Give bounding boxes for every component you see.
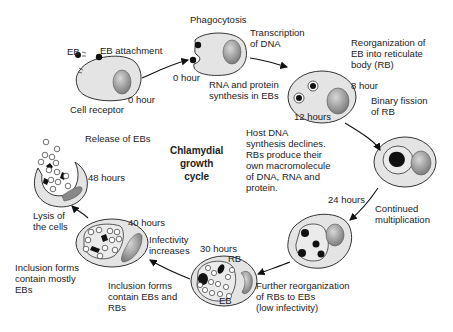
time-40-hours: 40 hours — [128, 217, 165, 228]
label-cell-receptor: Cell receptor — [70, 104, 124, 115]
label-continued-multiplication: Continued multiplication — [375, 203, 430, 225]
cell-binary-fission — [374, 137, 436, 187]
label-eb: EB — [67, 46, 80, 57]
label-release-ebs: Release of EBs — [85, 133, 150, 144]
arrow-3 — [345, 123, 380, 150]
diagram-title: Chlamydial growth cycle — [170, 144, 223, 183]
arrow-6 — [150, 260, 190, 279]
label-rna-protein: RNA and protein synthesis in EBs — [209, 79, 279, 101]
arrow-7 — [72, 206, 88, 218]
time-24-hours: 24 hours — [328, 194, 365, 205]
label-eb-attachment: EB attachment — [100, 45, 162, 56]
label-eb-30: EB — [219, 295, 232, 306]
label-host-dna: Host DNA synthesis declines. RBs produce… — [246, 127, 330, 193]
label-lysis: Lysis of the cells — [33, 210, 68, 232]
label-inclusion-ebs-rbs: Inclusion forms contain EBs and RBs — [108, 280, 177, 313]
label-infectivity-increases: Infectivity increases — [149, 234, 190, 256]
cell-phagocytosis — [190, 33, 247, 75]
time-48-hours: 48 hours — [88, 172, 125, 183]
time-0-hour-a: 0 hour — [128, 94, 155, 105]
label-further-reorganization: Further reorganization of RBs to EBs (lo… — [256, 280, 349, 313]
label-reorganization: Reorganization of EB into reticulate bod… — [351, 37, 425, 70]
cell-multiplication — [288, 214, 352, 268]
label-phagocytosis: Phagocytosis — [190, 14, 247, 25]
time-8-hour: 8 hour — [351, 80, 378, 91]
label-binary-fission: Binary fission of RB — [371, 95, 428, 117]
label-inclusion-mostly-ebs: Inclusion forms contain mostly EBs — [15, 262, 79, 295]
cell-48-hours — [34, 139, 87, 207]
arrow-2 — [250, 58, 287, 67]
label-rb: RB — [228, 253, 241, 264]
arrow-5 — [258, 262, 290, 274]
label-transcription: Transcription of DNA — [250, 27, 305, 49]
time-12-hours: 12 hours — [294, 111, 331, 122]
time-0-hour-b: 0 hour — [173, 72, 200, 83]
